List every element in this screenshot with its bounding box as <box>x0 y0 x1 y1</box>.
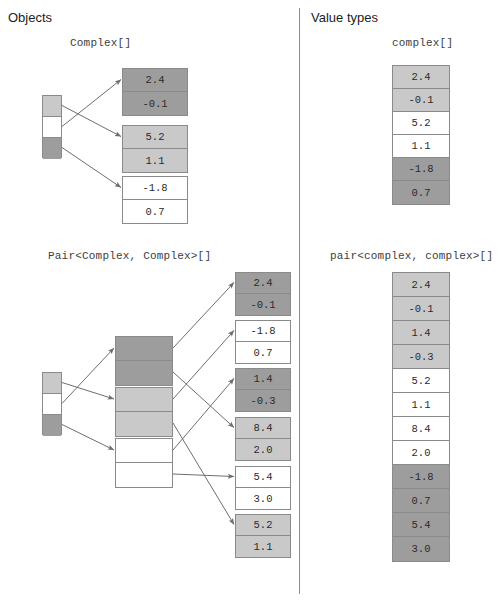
reference-slot <box>43 373 61 394</box>
object-field: 5.4 <box>236 467 290 488</box>
object-field: 2.4 <box>123 69 187 92</box>
object-field: 5.2 <box>236 515 290 536</box>
reference-arrow <box>173 283 234 349</box>
value-cell: 5.4 <box>393 513 449 537</box>
value-cell: 1.1 <box>393 135 449 158</box>
reference-arrow <box>62 348 114 404</box>
object-field: 1.1 <box>123 149 187 172</box>
reference-arrow <box>173 331 234 400</box>
object-field: 2.4 <box>236 273 290 294</box>
value-cell: -0.3 <box>393 345 449 369</box>
objects-complex-type-label: Complex[] <box>70 37 131 50</box>
object-field: -0.1 <box>236 294 290 315</box>
reference-slot <box>43 117 61 138</box>
value-cell: 1.4 <box>393 321 449 345</box>
object-field: 8.4 <box>236 418 290 439</box>
value-cell: 8.4 <box>393 417 449 441</box>
complex-object-box: -1.80.7 <box>122 176 188 224</box>
value-cell: 2.4 <box>393 66 449 89</box>
reference-slot <box>43 394 61 415</box>
object-field: 0.7 <box>123 200 187 223</box>
pair-object-box <box>115 387 173 437</box>
object-field <box>116 439 172 463</box>
value-cell: 2.0 <box>393 441 449 465</box>
reference-slot <box>43 415 61 436</box>
pair-object-box <box>115 336 173 386</box>
complex-object-box: 5.43.0 <box>235 466 291 510</box>
values-complex-type-label: complex[] <box>392 37 453 50</box>
value-cell: 2.4 <box>393 273 449 297</box>
objects-pair-reference-array <box>42 372 62 435</box>
object-field <box>116 361 172 385</box>
object-field: 2.0 <box>236 439 290 460</box>
value-cell: 0.7 <box>393 181 449 204</box>
reference-arrow <box>173 423 234 525</box>
value-types-column-heading: Value types <box>311 10 378 25</box>
object-field: 3.0 <box>236 488 290 509</box>
value-cell: -0.1 <box>393 297 449 321</box>
objects-complex-reference-array <box>42 95 62 158</box>
pair-object-box <box>115 438 173 488</box>
diagram-canvas: Objects Value types Complex[] complex[] … <box>0 0 501 602</box>
values-pair-type-label: pair<complex, complex>[] <box>330 250 493 263</box>
objects-pair-type-label: Pair<Complex, Complex>[] <box>48 250 211 263</box>
complex-object-box: 8.42.0 <box>235 417 291 461</box>
reference-slot <box>43 96 61 117</box>
object-field: 5.2 <box>123 126 187 149</box>
reference-arrow <box>62 106 121 137</box>
objects-column-heading: Objects <box>8 10 52 25</box>
object-field: -1.8 <box>236 321 290 342</box>
object-field: -0.3 <box>236 390 290 411</box>
values-pair-array: 2.4-0.11.4-0.35.21.18.42.0-1.80.75.43.0 <box>392 272 450 562</box>
complex-object-box: 1.4-0.3 <box>235 368 291 412</box>
complex-object-box: 2.4-0.1 <box>235 272 291 316</box>
reference-arrow <box>62 80 121 127</box>
reference-arrow <box>62 425 114 451</box>
complex-object-box: -1.80.7 <box>235 320 291 364</box>
value-cell: -1.8 <box>393 158 449 181</box>
value-cell: 1.1 <box>393 393 449 417</box>
reference-arrow <box>173 379 234 451</box>
reference-arrow <box>173 372 234 428</box>
value-cell: 5.2 <box>393 369 449 393</box>
value-cell: 0.7 <box>393 489 449 513</box>
object-field <box>116 388 172 412</box>
values-complex-array: 2.4-0.15.21.1-1.80.7 <box>392 65 450 205</box>
object-field: -1.8 <box>123 177 187 200</box>
complex-object-box: 5.21.1 <box>122 125 188 173</box>
object-field <box>116 412 172 436</box>
object-field: 0.7 <box>236 342 290 363</box>
object-field: 1.1 <box>236 536 290 557</box>
value-cell: 5.2 <box>393 112 449 135</box>
reference-arrow <box>62 148 121 188</box>
complex-object-box: 2.4-0.1 <box>122 68 188 116</box>
reference-arrow <box>173 474 234 477</box>
object-field <box>116 463 172 487</box>
value-cell: -1.8 <box>393 465 449 489</box>
value-cell: 3.0 <box>393 537 449 561</box>
column-divider <box>299 8 300 594</box>
reference-slot <box>43 138 61 159</box>
object-field: -0.1 <box>123 92 187 115</box>
object-field <box>116 337 172 361</box>
value-cell: -0.1 <box>393 89 449 112</box>
complex-object-box: 5.21.1 <box>235 514 291 558</box>
object-field: 1.4 <box>236 369 290 390</box>
reference-arrow <box>62 383 114 400</box>
